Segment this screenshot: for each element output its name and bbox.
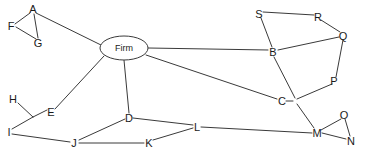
edge-a-firm: [36, 13, 101, 45]
node-label-f: F: [8, 21, 15, 32]
node-label-r: R: [314, 12, 322, 23]
node-label-p: P: [330, 76, 337, 87]
node-label-i: I: [7, 127, 10, 138]
edge-a-f: [15, 13, 30, 24]
edge-p-j1: [297, 84, 332, 99]
edge-b-q: [278, 37, 339, 50]
node-label-l: L: [194, 122, 200, 133]
node-label-e: E: [47, 107, 54, 118]
edge-layer: [12, 12, 350, 143]
node-label-s: S: [255, 9, 262, 20]
edge-firm-e: [55, 56, 104, 109]
edge-m-n: [322, 133, 346, 139]
node-label-q: Q: [339, 31, 348, 42]
graph-canvas: [0, 0, 365, 154]
edge-k-l: [153, 128, 193, 140]
edge-b-j1: [274, 57, 295, 98]
node-label-n: N: [347, 136, 355, 147]
edge-r-q: [321, 20, 340, 32]
edge-a-g: [34, 14, 38, 38]
edge-h-bend1: [18, 103, 33, 117]
node-label-b: B: [269, 47, 276, 58]
node-label-d: D: [125, 113, 133, 124]
edge-s-r: [263, 12, 314, 15]
edge-o-n: [345, 119, 350, 136]
hub-label-firm: Firm: [115, 44, 133, 53]
node-label-m: M: [312, 128, 321, 139]
edge-s-b: [261, 18, 272, 47]
edge-j-d: [79, 119, 125, 140]
edge-j1-m: [297, 104, 314, 128]
node-label-g: G: [34, 38, 43, 49]
node-label-o: O: [340, 110, 349, 121]
node-label-j: J: [71, 138, 77, 149]
edge-i-j: [12, 134, 70, 142]
network-diagram: FirmAFGHEIJDKLBSRQPCMON: [0, 0, 365, 154]
edge-q-p: [336, 40, 343, 77]
edge-firm-b: [148, 48, 268, 50]
edge-bend1-i: [12, 117, 33, 129]
node-label-a: A: [29, 4, 36, 15]
edge-firm-d: [124, 60, 129, 113]
node-label-h: H: [9, 94, 17, 105]
edge-firm-c: [146, 55, 277, 99]
node-label-c: C: [278, 96, 286, 107]
node-label-k: K: [145, 138, 152, 149]
edge-d-l: [133, 118, 193, 125]
edge-l-m: [201, 127, 312, 133]
edge-m-o: [321, 119, 341, 130]
edge-bend1-e: [33, 110, 47, 117]
